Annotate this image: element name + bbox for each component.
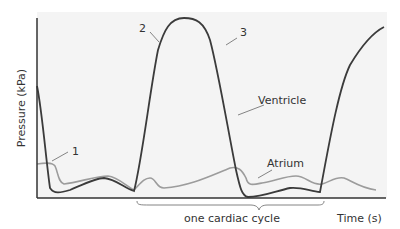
x-axis-label: Time (s) (336, 212, 382, 225)
ventricle-label: Ventricle (258, 94, 306, 107)
cycle-brace (137, 201, 324, 210)
plot-background (37, 12, 387, 198)
annotation-1: 1 (72, 145, 79, 158)
atrium-label: Atrium (267, 157, 304, 170)
cycle-label: one cardiac cycle (184, 212, 280, 225)
cardiac-pressure-chart: Pressure (kPa) 1 2 3 Ventricle Atrium on… (0, 0, 400, 229)
annotation-3: 3 (240, 26, 247, 39)
y-axis-label: Pressure (kPa) (15, 69, 28, 147)
annotation-2: 2 (139, 22, 146, 35)
